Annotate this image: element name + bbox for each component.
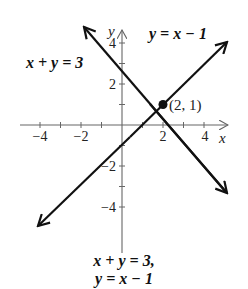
line-y-eq-x-minus-1 [38,137,130,226]
x-tick-label: −4 [33,129,48,144]
caption-line-2: y = x − 1 [0,268,248,289]
x-axis-label: x [218,130,226,146]
y-axis-label: y [106,23,115,39]
x-tick-label: 2 [160,129,167,144]
label-y-eq-x-minus-1: y = x − 1 [147,25,207,43]
label-x-plus-y-eq-3: x + y = 3 [25,54,83,72]
x-tick-label: 4 [202,129,209,144]
y-tick-label: 2 [109,77,116,92]
intersection-label: (2, 1) [169,97,202,114]
intersection-point [159,100,168,109]
y-tick-label: −4 [101,200,116,215]
x-tick-label: −2 [74,129,89,144]
y-axis: 4 2 −2 −4 y [101,23,125,253]
y-tick-label: −2 [101,159,116,174]
